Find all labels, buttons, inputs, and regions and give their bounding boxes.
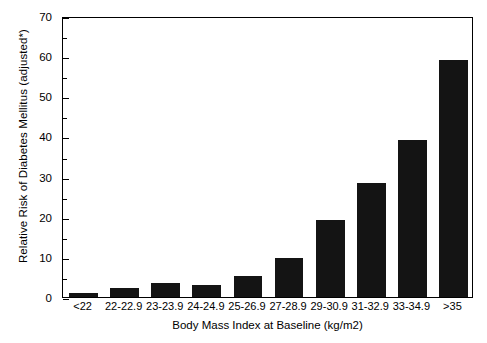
- y-tick-label: 40: [39, 131, 52, 143]
- x-axis-title: Body Mass Index at Baseline (kg/m2): [62, 319, 473, 331]
- y-tick-label: 20: [39, 212, 52, 224]
- bar: [275, 258, 304, 297]
- y-tick-label: 10: [39, 252, 52, 264]
- x-axis-tick-labels: <2222-22.923-23.924-24.925-26.927-28.929…: [62, 300, 473, 316]
- bar: [357, 183, 386, 297]
- bar: [398, 140, 427, 297]
- x-tick-label: 23-23.9: [146, 300, 183, 312]
- bar: [110, 288, 139, 297]
- bar: [234, 276, 263, 297]
- x-tick-label: 33-34.9: [393, 300, 430, 312]
- x-tick-label: 25-26.9: [228, 300, 265, 312]
- plot-area: [62, 17, 473, 298]
- y-axis-tick-labels: 010203040506070: [0, 0, 62, 343]
- bar: [439, 60, 468, 297]
- bar: [192, 285, 221, 297]
- bar: [151, 283, 180, 297]
- x-tick-label: 27-28.9: [269, 300, 306, 312]
- x-tick-label: 29-30.9: [310, 300, 347, 312]
- x-tick-label: 24-24.9: [187, 300, 224, 312]
- x-tick-label: <22: [73, 300, 92, 312]
- chart-figure: Relative Risk of Diabetes Mellitus (adju…: [0, 0, 487, 343]
- y-tick-label: 30: [39, 172, 52, 184]
- y-tick-label: 60: [39, 51, 52, 63]
- x-tick-label: >35: [443, 300, 462, 312]
- x-tick-label: 22-22.9: [105, 300, 142, 312]
- y-tick-label: 70: [39, 11, 52, 23]
- y-tick-label: 0: [46, 292, 52, 304]
- bar: [316, 220, 345, 297]
- x-tick-label: 31-32.9: [352, 300, 389, 312]
- bar-series: [63, 18, 472, 297]
- bar: [69, 293, 98, 297]
- y-tick-label: 50: [39, 91, 52, 103]
